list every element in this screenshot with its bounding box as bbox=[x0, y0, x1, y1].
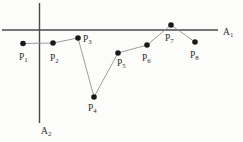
point-label-p7: P7 bbox=[165, 33, 174, 44]
data-point-p6 bbox=[144, 42, 150, 48]
point-label-p2: P2 bbox=[50, 53, 59, 64]
data-point-p8 bbox=[192, 39, 198, 45]
data-point-p7 bbox=[168, 22, 174, 28]
point-label-p1: P1 bbox=[19, 52, 28, 63]
figure: A1A2P1P2P3P4P5P6P7P8 bbox=[0, 0, 243, 142]
data-point-p3 bbox=[75, 35, 81, 41]
point-label-p3: P3 bbox=[83, 34, 92, 45]
data-point-p1 bbox=[20, 41, 26, 47]
point-label-p4: P4 bbox=[88, 103, 97, 114]
diagram-canvas: A1A2P1P2P3P4P5P6P7P8 bbox=[0, 0, 243, 142]
point-label-p5: P5 bbox=[117, 58, 126, 69]
point-label-p8: P8 bbox=[190, 50, 199, 61]
data-point-p4 bbox=[91, 94, 97, 100]
data-point-p5 bbox=[115, 50, 121, 56]
axis-label-a2: A2 bbox=[41, 126, 52, 137]
axis-label-a1: A1 bbox=[223, 27, 233, 38]
point-label-p6: P6 bbox=[142, 53, 151, 64]
data-point-p2 bbox=[50, 40, 56, 46]
